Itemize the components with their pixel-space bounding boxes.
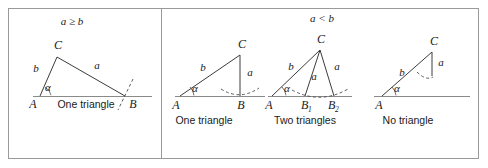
panel-3-vertex-B1-subscript: 1 — [308, 105, 312, 114]
panel-1-vertex-B: B — [129, 97, 137, 111]
triangle-cases-figure: a ≥ b A B C b a α One triangle a < b A — [0, 0, 488, 168]
panel-4-side-b — [382, 52, 432, 96]
panel-3-side-label-b: b — [288, 60, 294, 72]
panel-1-caption: One triangle — [57, 98, 114, 110]
outer-frame — [9, 9, 479, 159]
panel-1-side-label-a: a — [94, 59, 100, 71]
panel-2-side-label-b: b — [200, 61, 206, 73]
panel-1-vertex-C: C — [54, 38, 63, 52]
panel-3-vertex-A: A — [264, 98, 273, 112]
condition-label-left: a ≥ b — [61, 15, 84, 27]
panel-4-side-label-b: b — [399, 66, 405, 78]
panel-1-angle-label: α — [45, 81, 51, 93]
panel-2-vertex-B: B — [237, 98, 245, 112]
panel-4-vertex-A: A — [374, 98, 383, 112]
panel-3-caption: Two triangles — [274, 114, 336, 126]
panel-2-angle-label: α — [192, 82, 198, 94]
panel-3-diagram: A B 1 B 2 C b a a α Two triangles — [264, 32, 352, 126]
panel-2-side-label-a: a — [247, 66, 253, 78]
panel-4-diagram: A C b a α No triangle — [374, 34, 470, 126]
panel-3-angle-label: α — [284, 82, 290, 94]
condition-label-right: a < b — [310, 12, 334, 24]
panel-2-side-b — [180, 55, 240, 96]
panel-3-vertex-C: C — [317, 32, 326, 46]
panel-3-side-label-a2: a — [334, 60, 340, 72]
panel-2-caption: One triangle — [175, 114, 232, 126]
panel-1-side-label-b: b — [33, 62, 39, 74]
panel-1-diagram: A B C b a α One triangle — [28, 38, 152, 111]
panel-1-vertex-A: A — [28, 97, 37, 111]
panel-1-side-a — [57, 57, 125, 96]
panel-4-side-label-a: a — [438, 56, 444, 68]
panel-2-diagram: A B C b a α One triangle — [171, 37, 265, 126]
panel-3-side-a2 — [320, 50, 334, 96]
panel-3-vertex-B2-subscript: 2 — [335, 105, 339, 114]
figure-canvas: a ≥ b A B C b a α One triangle a < b A — [0, 0, 488, 168]
panel-4-angle-label: α — [394, 82, 400, 94]
panel-2-vertex-C: C — [238, 37, 247, 51]
panel-4-caption: No triangle — [383, 114, 434, 126]
panel-3-side-label-a1: a — [311, 70, 317, 82]
panel-4-vertex-C: C — [430, 34, 439, 48]
panel-2-vertex-A: A — [171, 98, 180, 112]
panel-4-compass-arc — [417, 72, 433, 78]
